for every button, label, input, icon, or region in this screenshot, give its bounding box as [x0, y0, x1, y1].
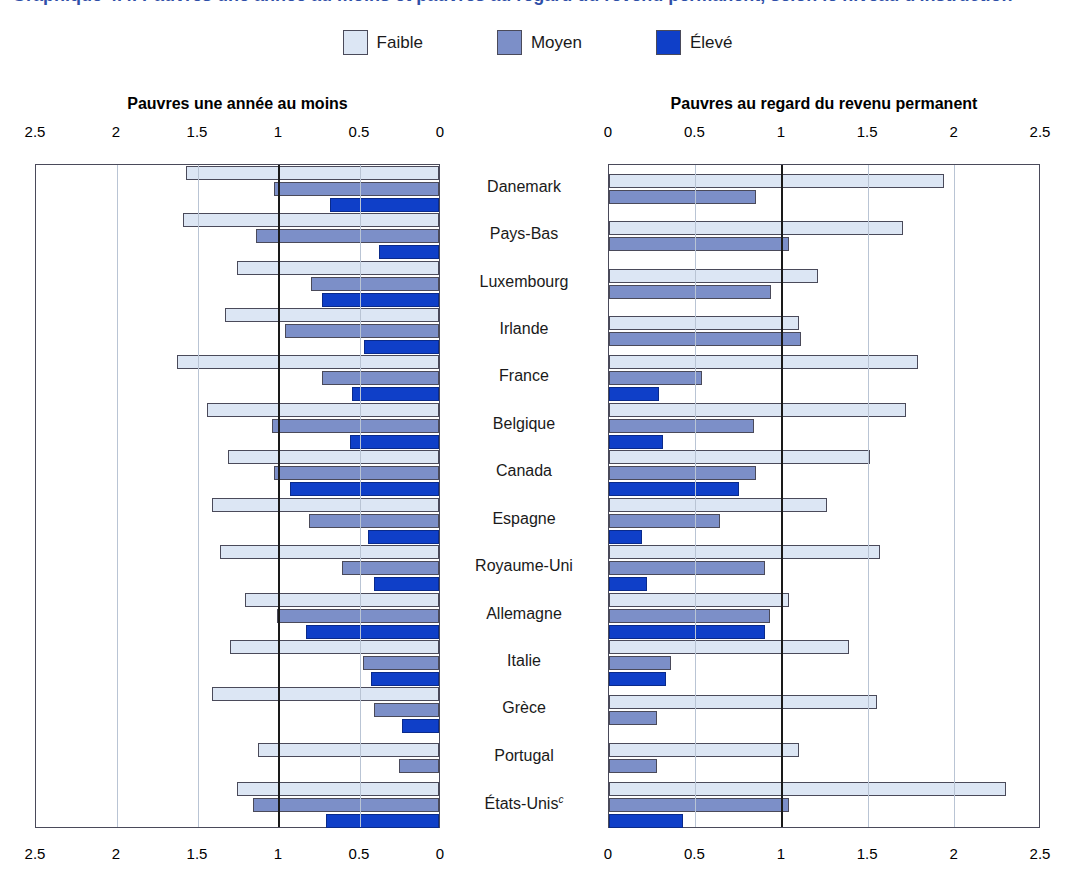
category-label-belgique: Belgique: [440, 415, 608, 433]
category-label-royaume-uni: Royaume-Uni: [440, 557, 608, 575]
axis-tick-right-2: 2: [949, 845, 957, 862]
bar-group-right-6: [609, 450, 1039, 497]
bar-left-moyen-5: [272, 419, 439, 433]
bar-group-left-13: [36, 782, 439, 829]
plot-area-right: [608, 164, 1040, 828]
bar-left-eleve-3: [364, 340, 439, 354]
bar-group-right-0: [609, 165, 1039, 212]
panel-title-right: Pauvres au regard du revenu permanent: [608, 95, 1040, 113]
bar-group-left-4: [36, 355, 439, 402]
bar-right-moyen-10: [609, 656, 671, 670]
bar-right-moyen-3: [609, 332, 801, 346]
axis-tick-right-0: 0: [604, 123, 612, 140]
gridline-right-2: [954, 165, 955, 827]
axis-tick-right-1_5: 1.5: [857, 123, 878, 140]
legend-label-eleve: Élevé: [690, 33, 733, 53]
bar-right-moyen-9: [609, 609, 770, 623]
bar-left-faible-4: [177, 355, 439, 369]
bar-left-eleve-1: [379, 245, 439, 259]
bar-left-eleve-2: [322, 293, 439, 307]
axis-tick-right-2_5: 2.5: [1030, 845, 1051, 862]
bar-left-moyen-6: [274, 466, 439, 480]
bar-group-right-7: [609, 497, 1039, 544]
bar-group-right-8: [609, 544, 1039, 591]
plot-area-left: [35, 164, 440, 828]
bar-right-faible-9: [609, 593, 789, 607]
bar-group-right-3: [609, 307, 1039, 354]
category-label-italie: Italie: [440, 652, 608, 670]
bar-left-moyen-2: [311, 277, 439, 291]
legend-swatch-eleve: [656, 30, 681, 55]
bar-left-eleve-0: [330, 198, 439, 212]
bar-group-left-6: [36, 450, 439, 497]
bar-right-faible-3: [609, 316, 799, 330]
bar-group-left-3: [36, 307, 439, 354]
axis-ticks-bottom-right: 00.511.522.5: [0, 845, 1075, 867]
bar-right-eleve-5: [609, 435, 663, 449]
bar-group-left-12: [36, 734, 439, 781]
bar-left-eleve-9: [306, 625, 439, 639]
legend-swatch-faible: [343, 30, 368, 55]
bar-rows-right: [609, 165, 1039, 827]
axis-tick-right-0_5: 0.5: [684, 123, 705, 140]
axis-tick-right-0_5: 0.5: [684, 845, 705, 862]
bar-left-faible-1: [183, 213, 439, 227]
bar-left-faible-12: [258, 743, 439, 757]
bar-left-moyen-8: [342, 561, 439, 575]
bar-left-moyen-13: [253, 798, 439, 812]
bar-right-faible-10: [609, 640, 849, 654]
category-labels: DanemarkPays-BasLuxembourgIrlandeFranceB…: [440, 164, 608, 828]
bar-left-moyen-0: [274, 182, 439, 196]
bar-left-eleve-10: [371, 672, 439, 686]
bar-left-faible-13: [237, 782, 440, 796]
gridline-right-0_5: [695, 165, 696, 827]
bar-left-faible-11: [212, 687, 439, 701]
chart-legend: Faible Moyen Élevé: [0, 30, 1075, 55]
category-label-pays-bas: Pays-Bas: [440, 225, 608, 243]
axis-tick-right-1_5: 1.5: [857, 845, 878, 862]
gridline-left-0_5: [360, 165, 361, 827]
footnote-marker: c: [558, 794, 563, 805]
bar-left-eleve-4: [352, 387, 439, 401]
bar-right-moyen-4: [609, 371, 702, 385]
legend-item-eleve: Élevé: [656, 30, 733, 55]
bar-left-eleve-11: [402, 719, 439, 733]
bar-left-faible-10: [230, 640, 439, 654]
bar-group-right-1: [609, 212, 1039, 259]
category-label-allemagne: Allemagne: [440, 605, 608, 623]
bar-right-moyen-1: [609, 237, 789, 251]
bar-right-faible-11: [609, 695, 877, 709]
bar-right-faible-2: [609, 269, 818, 283]
bar-right-faible-1: [609, 221, 903, 235]
bar-right-faible-4: [609, 355, 918, 369]
bar-left-moyen-1: [256, 229, 439, 243]
bar-right-eleve-8: [609, 577, 647, 591]
bar-right-moyen-7: [609, 514, 720, 528]
bar-right-faible-6: [609, 450, 870, 464]
bar-left-moyen-12: [399, 759, 440, 773]
bar-group-left-9: [36, 592, 439, 639]
bar-right-moyen-8: [609, 561, 765, 575]
bar-right-eleve-7: [609, 530, 642, 544]
bar-right-moyen-0: [609, 190, 756, 204]
bar-right-faible-12: [609, 743, 799, 757]
category-label-france: France: [440, 367, 608, 385]
axis-tick-right-1: 1: [777, 845, 785, 862]
bar-left-faible-9: [245, 593, 439, 607]
bar-group-right-12: [609, 734, 1039, 781]
axis-ticks-top-right: 00.511.522.5: [0, 123, 1075, 145]
bar-right-moyen-5: [609, 419, 754, 433]
axis-tick-right-2_5: 2.5: [1030, 123, 1051, 140]
bar-right-moyen-6: [609, 466, 756, 480]
axis-tick-right-0: 0: [604, 845, 612, 862]
bar-rows-left: [36, 165, 439, 827]
bar-right-eleve-10: [609, 672, 666, 686]
panel-title-left: Pauvres une année au moins: [35, 95, 440, 113]
bar-left-moyen-9: [277, 609, 439, 623]
bar-group-left-7: [36, 497, 439, 544]
bar-right-eleve-13: [609, 814, 683, 828]
category-label-irlande: Irlande: [440, 320, 608, 338]
bar-group-left-8: [36, 544, 439, 591]
bar-right-faible-5: [609, 403, 906, 417]
bar-group-left-11: [36, 687, 439, 734]
